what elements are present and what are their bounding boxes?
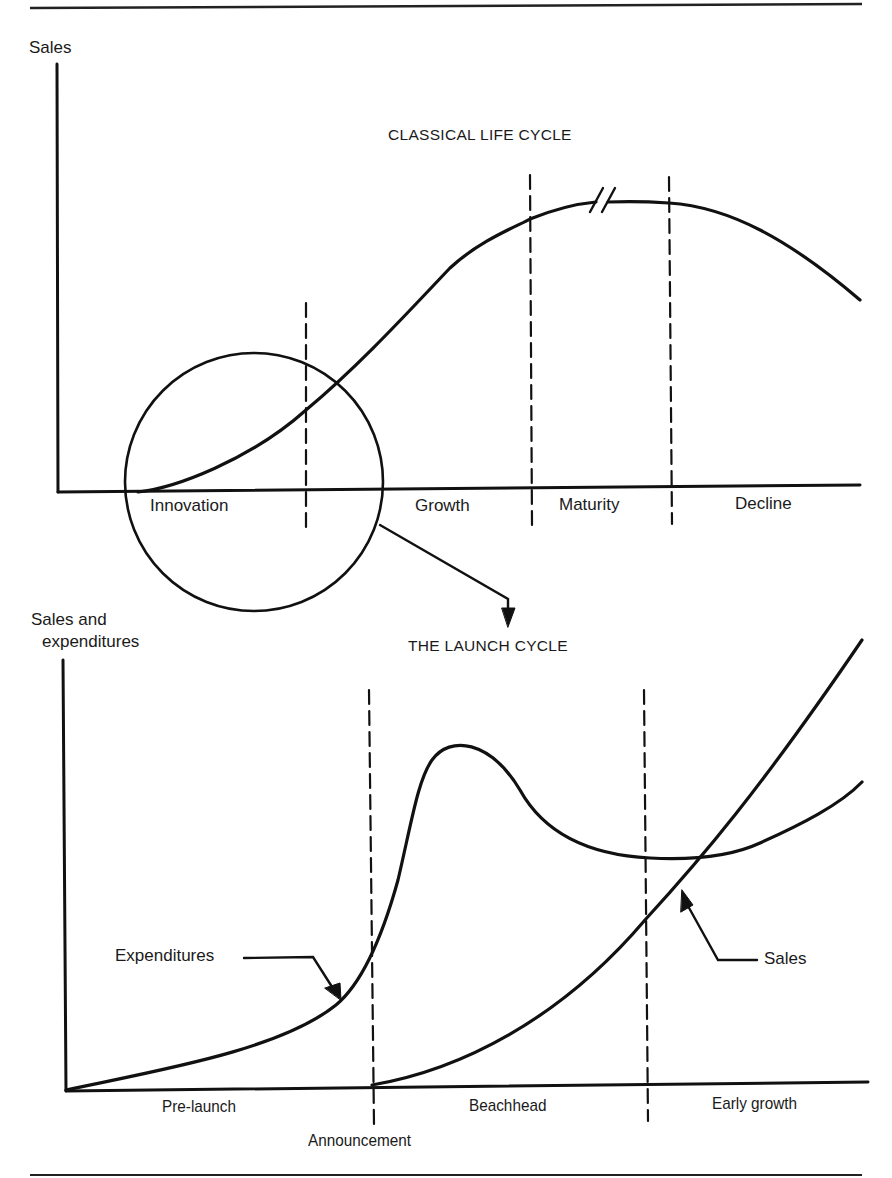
top-chart-title: CLASSICAL LIFE CYCLE bbox=[388, 126, 572, 144]
divider-maturity-decline bbox=[669, 177, 672, 524]
top-y-axis-label: Sales bbox=[29, 39, 72, 58]
expenditures-callout-line bbox=[244, 957, 334, 990]
callout-expenditures: Expenditures bbox=[115, 947, 214, 966]
connector-arrow-line bbox=[380, 525, 508, 612]
top-x-axis bbox=[58, 485, 860, 492]
stage-label-decline: Decline bbox=[735, 495, 792, 514]
launch-sales-curve bbox=[372, 640, 862, 1085]
sales-callout-arrowhead bbox=[681, 890, 693, 912]
classical-life-cycle-chart bbox=[57, 64, 860, 627]
axis-break-mark-2 bbox=[602, 188, 615, 212]
stage-label-maturity: Maturity bbox=[559, 496, 619, 515]
divider-announcement bbox=[369, 690, 374, 1125]
milestone-label-announcement: Announcement bbox=[308, 1132, 411, 1151]
stage-label-early-growth: Early growth bbox=[712, 1095, 797, 1114]
classical-sales-curve-left bbox=[138, 202, 596, 492]
bottom-x-axis bbox=[66, 1082, 868, 1091]
axis-break-mark-1 bbox=[590, 188, 603, 212]
stage-label-growth: Growth bbox=[415, 497, 470, 516]
callout-sales: Sales bbox=[764, 950, 807, 969]
stage-label-pre-launch: Pre-launch bbox=[162, 1098, 236, 1117]
launch-cycle-chart bbox=[63, 640, 868, 1125]
expenditures-callout-arrowhead bbox=[325, 983, 341, 1000]
bottom-chart-title: THE LAUNCH CYCLE bbox=[408, 637, 568, 655]
innovation-highlight-circle bbox=[125, 353, 383, 611]
top-y-axis bbox=[57, 64, 58, 492]
life-cycle-figure bbox=[0, 0, 892, 1178]
top-rule bbox=[30, 4, 862, 8]
classical-sales-curve-right bbox=[608, 202, 860, 300]
stage-label-innovation: Innovation bbox=[150, 497, 228, 516]
sales-callout-line bbox=[688, 906, 757, 960]
bottom-y-axis-label-line1: Sales and bbox=[31, 611, 107, 630]
connector-arrowhead bbox=[502, 608, 515, 627]
bottom-y-axis-label-line2: expenditures bbox=[42, 633, 139, 652]
divider-beachhead-early-growth bbox=[644, 690, 648, 1121]
divider-growth-maturity bbox=[530, 175, 532, 525]
expenditures-curve bbox=[66, 745, 862, 1090]
bottom-y-axis bbox=[63, 660, 66, 1091]
stage-label-beachhead: Beachhead bbox=[469, 1097, 546, 1116]
